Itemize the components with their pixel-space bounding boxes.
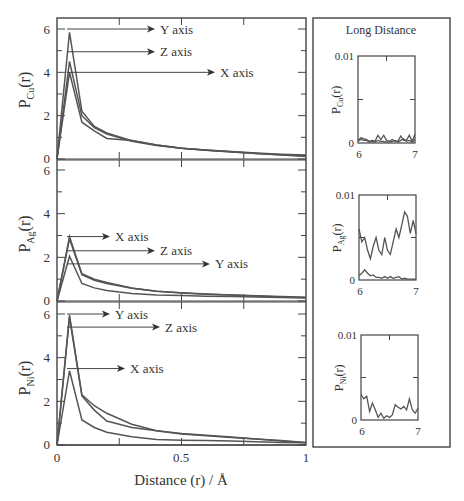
annotation-label: X axis: [130, 361, 164, 376]
ylabel-main: P: [16, 244, 33, 253]
annotation-label: Y axis: [160, 22, 193, 37]
y-tick-label: 6: [44, 307, 51, 322]
ylabel-sub: Ag: [25, 231, 36, 243]
x-tick-label: 1: [303, 450, 310, 465]
ylabel-main: P: [16, 99, 33, 108]
ylabel-tail: (r): [16, 361, 34, 377]
y-tick-label: 6: [44, 22, 51, 37]
x-tick-labels: 0 0.5 1: [54, 450, 310, 465]
ag-y-axis-label: PAg(r): [16, 215, 36, 252]
inset-x-tick-label: 7: [412, 148, 418, 160]
inset-ylabel-main: P: [329, 245, 344, 252]
ni-y-tick-labels: 0 2 4 6: [44, 307, 51, 452]
y-tick-label: 4: [44, 206, 51, 221]
inset-plot-ag: [359, 195, 416, 280]
annotation-label: X axis: [115, 229, 149, 244]
inset-plot-cu: [358, 56, 415, 143]
curve-z-axis: [57, 317, 306, 445]
inset-y-tick-label: 0.01: [336, 189, 355, 201]
ylabel-main: P: [16, 386, 33, 395]
inset-plot-ni: [361, 335, 418, 420]
inset-curve: [359, 270, 416, 279]
ylabel-tail: (r): [16, 72, 34, 88]
y-tick-label: 4: [44, 65, 51, 80]
inset-y-tick-label: 0.01: [338, 329, 357, 341]
y-tick-label: 4: [44, 350, 51, 365]
y-tick-label: 2: [44, 108, 51, 123]
svg-text:PAg(r): PAg(r): [16, 215, 36, 252]
y-tick-label: 6: [44, 163, 51, 178]
inset-ni-labels: 0.01 0 6 7 PNi(r): [331, 329, 421, 437]
svg-text:PCu(r): PCu(r): [328, 86, 345, 115]
main-curves: [57, 32, 306, 445]
svg-text:PNi(r): PNi(r): [16, 361, 36, 396]
inset-curve: [359, 212, 416, 259]
y-tick-label: 0: [44, 437, 51, 452]
insets: [358, 56, 418, 420]
curve-z-axis: [57, 62, 306, 160]
main-plot-frame: [57, 18, 306, 445]
annotation-label: Z axis: [160, 243, 192, 258]
ylabel-sub: Cu: [25, 88, 36, 100]
svg-text:PCu(r): PCu(r): [16, 72, 36, 109]
ylabel-tail: (r): [16, 215, 34, 231]
inset-x-tick-label: 6: [356, 148, 362, 160]
annotation-label: Z axis: [160, 44, 192, 59]
x-tick-label: 0.5: [173, 450, 189, 465]
inset-x-tick-label: 6: [357, 285, 363, 297]
cu-y-axis-label: PCu(r): [16, 72, 36, 109]
y-tick-label: 0: [44, 293, 51, 308]
inset-ylabel-sub: Ag: [337, 235, 346, 245]
ag-y-tick-labels: 0 2 4 6: [44, 163, 51, 308]
inset-frame: [358, 56, 415, 143]
svg-text:PAg(r): PAg(r): [329, 223, 346, 252]
inset-ylabel-sub: Cu: [336, 98, 345, 107]
annotation-label: Y axis: [215, 256, 248, 271]
inset-x-tick-label: 7: [413, 285, 419, 297]
long-distance-title: Long Distance: [346, 23, 416, 37]
figure: Y axisZ axisX axisX axisZ axisY axisY ax…: [0, 0, 464, 501]
y-tick-label: 2: [44, 394, 51, 409]
inset-x-tick-label: 7: [415, 425, 421, 437]
inset-ylabel-tail: (r): [330, 223, 344, 235]
x-axis-title: Distance (r) / Å: [134, 472, 228, 489]
x-tick-label: 0: [54, 450, 61, 465]
y-tick-label: 2: [44, 250, 51, 265]
inset-ylabel-tail: (r): [332, 364, 346, 376]
inset-curve: [361, 395, 418, 419]
annotation-label: Z axis: [165, 320, 197, 335]
inset-ylabel-tail: (r): [329, 86, 343, 98]
svg-text:PNi(r): PNi(r): [331, 364, 348, 391]
cu-y-tick-labels: 0 2 4 6: [44, 22, 51, 166]
main-ticks: [57, 18, 306, 445]
ylabel-sub: Ni: [25, 376, 36, 386]
inset-y-tick-label: 0: [350, 274, 356, 286]
annotation-label: X axis: [220, 65, 254, 80]
inset-ylabel-main: P: [331, 384, 346, 391]
inset-frame: [359, 195, 416, 280]
inset-frame: [361, 335, 418, 420]
inset-y-tick-label: 0: [349, 137, 355, 149]
ni-y-axis-label: PNi(r): [16, 361, 36, 396]
inset-x-tick-label: 6: [359, 425, 365, 437]
inset-ylabel-main: P: [328, 107, 343, 114]
annotation-label: Y axis: [115, 307, 148, 322]
inset-y-tick-label: 0: [352, 414, 358, 426]
curve-x-axis: [57, 72, 306, 159]
inset-y-tick-label: 0.01: [335, 50, 354, 62]
main-annotations: Y axisZ axisX axisX axisZ axisY axisY ax…: [67, 22, 254, 377]
